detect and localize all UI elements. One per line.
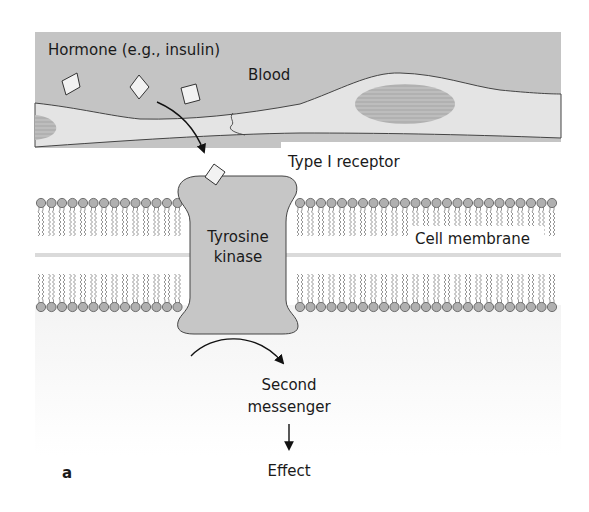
receptor-label: Type I receptor: [287, 153, 401, 171]
enzyme-label-line2: kinase: [214, 248, 263, 266]
membrane-label: Cell membrane: [415, 230, 530, 248]
blood-label: Blood: [248, 66, 290, 84]
nucleus-right: [355, 84, 455, 124]
membrane-midplane: [35, 253, 561, 257]
hormone-label: Hormone (e.g., insulin): [48, 41, 220, 59]
messenger-label-line2: messenger: [247, 398, 331, 416]
hormone-receptor-diagram: Hormone (e.g., insulin) Blood Type I rec…: [0, 0, 589, 512]
effect-label: Effect: [267, 462, 310, 480]
messenger-label-line1: Second: [261, 376, 316, 394]
panel-label: a: [62, 464, 72, 482]
enzyme-label-line1: Tyrosine: [206, 228, 268, 246]
hormone-molecule: [181, 84, 200, 104]
